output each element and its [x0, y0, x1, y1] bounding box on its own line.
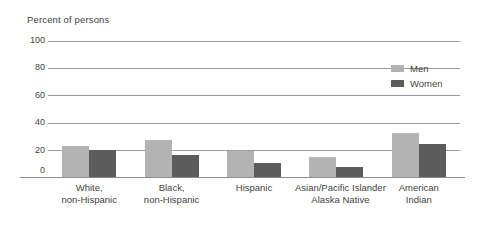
category-label-1: Black, non-Hispanic	[124, 182, 219, 206]
bar-women-4	[419, 144, 446, 177]
category-label-2: Hispanic	[219, 182, 289, 194]
bar-men-4	[392, 133, 419, 177]
category-label-0: White, non-Hispanic	[42, 182, 137, 206]
legend-label-men: Men	[410, 63, 428, 74]
bar-women-1	[172, 155, 199, 177]
bar-men-0	[62, 146, 89, 177]
legend-label-women: Women	[410, 78, 443, 89]
bar-men-3	[309, 157, 336, 177]
chart-legend: Men Women	[391, 61, 443, 91]
bar-women-0	[89, 150, 116, 177]
bar-women-3	[336, 167, 363, 177]
legend-swatch-men-icon	[391, 65, 404, 72]
legend-swatch-women-icon	[391, 80, 404, 87]
bar-men-1	[145, 140, 172, 177]
bar-men-2	[227, 151, 254, 177]
legend-item-men: Men	[391, 61, 443, 76]
legend-item-women: Women	[391, 76, 443, 91]
bar-women-2	[254, 163, 281, 177]
category-label-4: American Indian	[379, 182, 459, 206]
bar-chart: Percent of persons 100 80 60 40 20 0 Whi…	[0, 0, 480, 226]
